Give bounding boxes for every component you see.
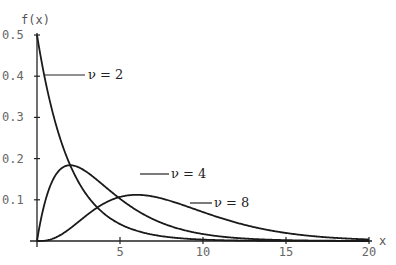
curve-label: ν = 2 — [88, 67, 123, 82]
chi-squared-chart: 0.10.20.30.40.5 5101520 f(x) x ν = 2ν = … — [0, 0, 396, 265]
curves — [37, 35, 369, 241]
y-ticks: 0.10.20.30.40.5 — [2, 28, 40, 207]
y-tick-label: 0.2 — [2, 152, 24, 166]
y-tick-label: 0.3 — [2, 110, 24, 124]
x-tick-label: 10 — [196, 245, 210, 259]
y-tick-label: 0.1 — [2, 193, 24, 207]
curve-label: ν = 8 — [214, 195, 249, 210]
x-axis-title: x — [379, 234, 386, 248]
y-tick-label: 0.4 — [2, 69, 24, 83]
x-tick-label: 5 — [116, 245, 123, 259]
y-axis-title: f(x) — [21, 13, 50, 27]
y-tick-label: 0.5 — [2, 28, 24, 42]
x-tick-label: 20 — [362, 245, 376, 259]
axes — [30, 33, 372, 247]
curve-nu-2 — [37, 35, 369, 241]
x-tick-label: 15 — [279, 245, 293, 259]
curve-label: ν = 4 — [171, 166, 206, 181]
curve-labels: ν = 2ν = 4ν = 8 — [45, 67, 249, 210]
